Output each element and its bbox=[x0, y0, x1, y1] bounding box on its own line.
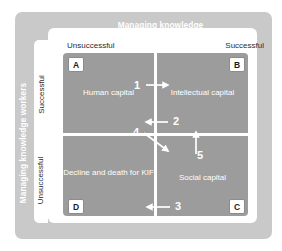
quadrant-caption-b: Intellectual capital bbox=[157, 88, 248, 98]
column-header-successful: Successful bbox=[225, 41, 264, 50]
quadrant-caption-a: Human capital bbox=[63, 88, 154, 98]
quadrant-badge-c: C bbox=[229, 199, 245, 214]
arrow-label-1: 1 bbox=[134, 79, 140, 91]
arrow-label-4: 4 bbox=[133, 126, 139, 138]
quadrant-matrix bbox=[63, 53, 248, 216]
row-header-unsuccessful-text: Unsuccessful bbox=[37, 156, 46, 204]
diagram-root: Managing knowledge Managing knowledge wo… bbox=[0, 0, 282, 251]
arrow-label-3: 3 bbox=[175, 200, 181, 212]
quadrant-badge-a: A bbox=[68, 57, 84, 72]
arrow-label-2: 2 bbox=[173, 115, 179, 127]
quadrant-caption-d: Decline and death for KIF bbox=[63, 168, 154, 178]
quadrant-badge-b: B bbox=[229, 57, 245, 72]
arrow-label-5: 5 bbox=[197, 149, 203, 161]
row-header-successful-text: Successful bbox=[37, 75, 46, 114]
row-header-unsuccessful: Unsuccessful bbox=[34, 142, 48, 218]
left-axis-title-text: Managing knowledge workers bbox=[19, 82, 29, 203]
quadrant-badge-d: D bbox=[68, 199, 84, 214]
column-header-unsuccessful: Unsuccessful bbox=[67, 41, 115, 50]
quadrant-caption-c: Social capital bbox=[157, 173, 248, 183]
left-axis-title: Managing knowledge workers bbox=[16, 60, 31, 225]
row-header-successful: Successful bbox=[34, 56, 48, 132]
